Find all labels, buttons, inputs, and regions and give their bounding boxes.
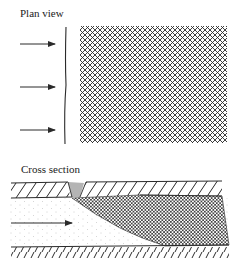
lower-wall <box>11 247 229 258</box>
cross-section <box>10 181 230 258</box>
wall-line <box>65 27 66 144</box>
upper-wall-left <box>11 182 70 198</box>
diagram-canvas <box>0 0 238 269</box>
plan-view <box>20 26 227 144</box>
hatched-deposit-region <box>80 26 227 143</box>
